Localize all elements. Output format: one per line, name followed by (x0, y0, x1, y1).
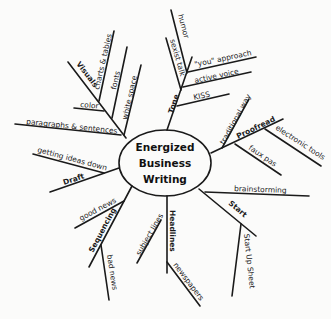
white-space-label: white space (120, 74, 139, 120)
you-approach-label: "you" approach (194, 48, 253, 69)
paragraphs-sentences-label: paragraphs & sentences (26, 117, 118, 136)
newspapers-label: newspapers (171, 261, 205, 303)
getting-ideas-down-label: getting ideas down (36, 145, 108, 172)
tone-label: Tone (166, 93, 181, 115)
center-line-3: Writing (143, 173, 187, 185)
electronic-tools-label: electronic tools (274, 123, 327, 162)
central-node: Energized Business Writing (119, 130, 211, 196)
branch-visuals: Visuals charts & tables fonts white spac… (15, 31, 141, 138)
brainstorming-label: brainstorming (234, 184, 287, 195)
branch-proofread: Proofread traditional way electronic too… (211, 92, 327, 175)
center-line-1: Energized (136, 141, 195, 153)
kiss-label: KISS (193, 90, 211, 102)
mind-map-svg: Energized Business Writing Visuals chart… (0, 0, 331, 319)
color-label: color (80, 100, 100, 111)
start-up-sheet-label: Start Up Sheet (242, 233, 257, 289)
start-label: Start (227, 199, 249, 220)
branch-sequencing: Sequencing good news bad news (75, 186, 132, 300)
subject-lines-label: subject lines (134, 212, 165, 257)
branch-headlines: Headlines subject lines newspapers (134, 196, 206, 306)
proofread-label: Proofread (235, 114, 277, 140)
headlines-label: Headlines (168, 210, 177, 252)
branch-start: Start brainstorming Start Up Sheet (199, 184, 309, 296)
branch-draft: Draft getting ideas down (33, 145, 119, 192)
traditional-way-label: traditional way (218, 92, 253, 146)
fonts-label: fonts (109, 70, 122, 90)
center-line-2: Business (139, 157, 191, 169)
mind-map: Energized Business Writing Visuals chart… (0, 0, 331, 319)
draft-label: Draft (62, 171, 86, 186)
